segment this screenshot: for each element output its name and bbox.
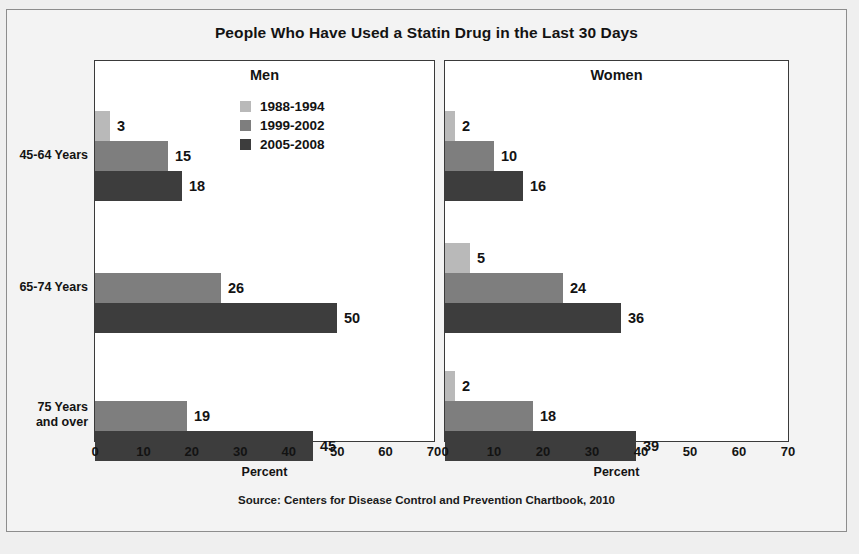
- bar: [95, 111, 110, 141]
- source-note: Source: Centers for Disease Control and …: [7, 494, 846, 506]
- bar: [445, 171, 523, 201]
- bar-value-label: 18: [540, 401, 556, 431]
- bar-value-label: 10: [501, 141, 517, 171]
- category-label: 75 Yearsand over: [4, 400, 88, 430]
- bar: [95, 273, 221, 303]
- bar: [95, 303, 337, 333]
- bar-value-label: 15: [175, 141, 191, 171]
- x-tick-label: 60: [378, 444, 392, 459]
- bar: [95, 401, 187, 431]
- plot-area-women: 210165243621839: [445, 61, 788, 441]
- bar-value-label: 3: [117, 111, 125, 141]
- x-tick-label: 30: [233, 444, 247, 459]
- bar: [445, 273, 563, 303]
- bar: [95, 171, 182, 201]
- x-tick-label: 0: [91, 444, 98, 459]
- x-axis-men: 010203040506070: [94, 444, 435, 464]
- bar-value-label: 24: [570, 273, 586, 303]
- category-label-line: and over: [36, 415, 88, 429]
- x-tick-label: 40: [281, 444, 295, 459]
- bar: [95, 141, 168, 171]
- bar-value-label: 19: [194, 401, 210, 431]
- category-label-line: 45-64 Years: [19, 148, 88, 162]
- bar-value-label: 2: [462, 371, 470, 401]
- category-label-line: 75 Years: [37, 400, 88, 414]
- panel-men: Men 1988-1994 1999-2002 2005-2008 315182…: [94, 60, 435, 442]
- category-label-line: 65-74 Years: [19, 280, 88, 294]
- x-tick-label: 50: [683, 444, 697, 459]
- x-tick-label: 20: [536, 444, 550, 459]
- bar: [445, 141, 494, 171]
- x-tick-label: 0: [441, 444, 448, 459]
- x-axis-title-men: Percent: [94, 465, 435, 479]
- x-tick-label: 10: [487, 444, 501, 459]
- bar: [445, 401, 533, 431]
- bar-value-label: 26: [228, 273, 244, 303]
- x-tick-label: 10: [136, 444, 150, 459]
- x-tick-label: 40: [634, 444, 648, 459]
- x-tick-label: 30: [585, 444, 599, 459]
- bar: [445, 111, 455, 141]
- bar-value-label: 5: [477, 243, 485, 273]
- chart-title: People Who Have Used a Statin Drug in th…: [7, 24, 846, 42]
- x-tick-label: 70: [781, 444, 795, 459]
- bar-value-label: 18: [189, 171, 205, 201]
- panel-women: Women 210165243621839: [444, 60, 789, 442]
- x-tick-label: 20: [185, 444, 199, 459]
- bar: [445, 243, 470, 273]
- x-tick-label: 50: [330, 444, 344, 459]
- category-label: 45-64 Years: [4, 148, 88, 163]
- chart-figure: People Who Have Used a Statin Drug in th…: [6, 9, 847, 532]
- category-label: 65-74 Years: [4, 280, 88, 295]
- x-axis-title-women: Percent: [444, 465, 789, 479]
- x-tick-label: 60: [732, 444, 746, 459]
- bar-value-label: 50: [344, 303, 360, 333]
- bar: [445, 371, 455, 401]
- bar-value-label: 2: [462, 111, 470, 141]
- bar-value-label: 16: [530, 171, 546, 201]
- bar-value-label: 36: [628, 303, 644, 333]
- x-tick-label: 70: [427, 444, 441, 459]
- x-axis-women: 010203040506070: [444, 444, 789, 464]
- bar: [445, 303, 621, 333]
- plot-area-men: 3151826501945: [95, 61, 434, 441]
